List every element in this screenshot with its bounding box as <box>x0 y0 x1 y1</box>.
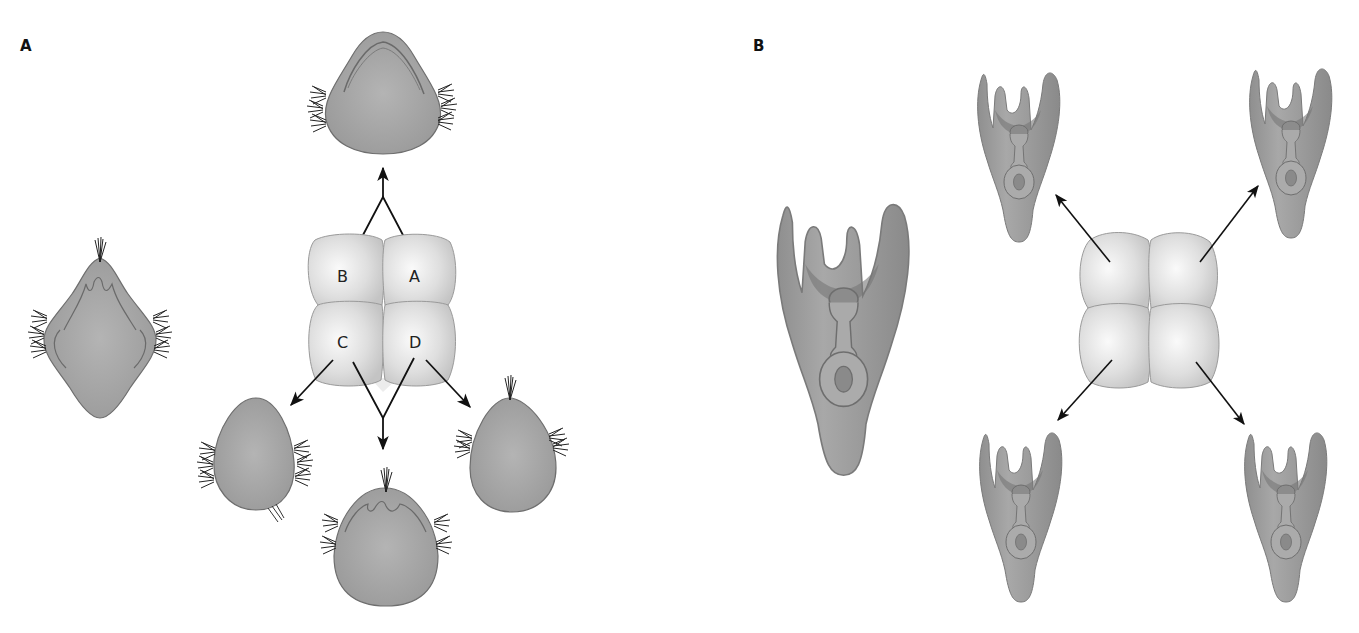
panel-b <box>777 69 1331 602</box>
partial-larva-cd <box>320 467 452 606</box>
small-larva-upper-left <box>978 73 1060 242</box>
blastomere-label-a: A <box>409 267 420 286</box>
arrow-lower-right <box>1196 362 1244 424</box>
arrow-upper-right <box>1200 186 1258 262</box>
blastomere-label-d: D <box>409 333 421 352</box>
small-larva-lower-left <box>980 433 1062 602</box>
partial-larva-c <box>197 398 313 522</box>
panel-a: B A C D <box>28 32 569 606</box>
blastomere-label-c: C <box>337 333 348 352</box>
blastomere-label-b: B <box>337 267 348 286</box>
whole-larva-b <box>777 205 909 476</box>
small-larva-upper-right <box>1250 69 1332 238</box>
small-larva-lower-right <box>1245 433 1327 602</box>
diagram-canvas: B A C D <box>0 0 1359 633</box>
partial-larva-d <box>454 375 569 512</box>
whole-larva-a <box>28 237 172 418</box>
partial-larva-ab <box>307 32 457 154</box>
